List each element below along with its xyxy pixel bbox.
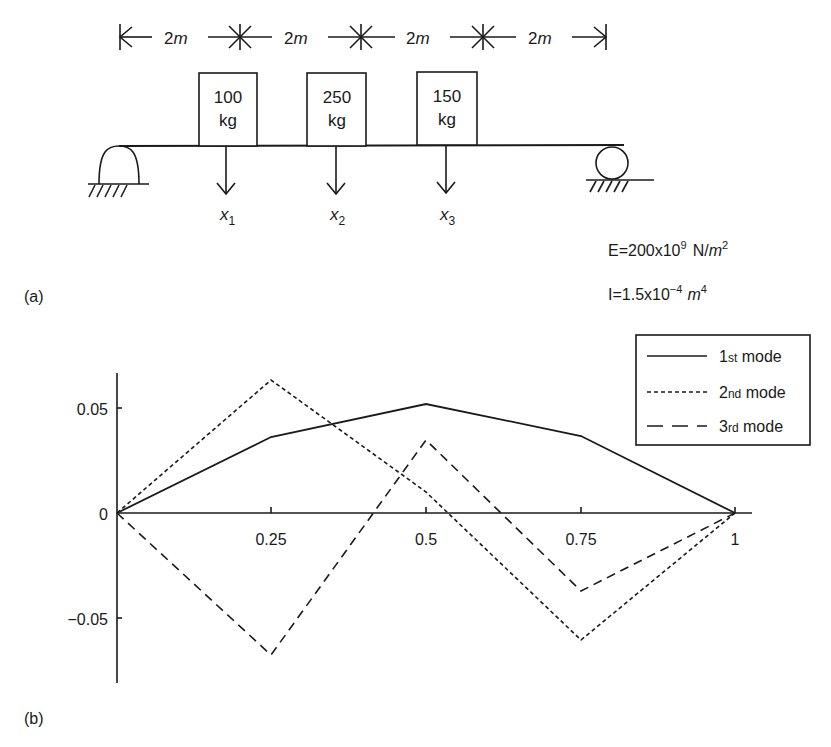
roller-support-icon xyxy=(586,147,654,192)
legend-label-2nd: 2nd mode xyxy=(719,384,786,401)
chart-legend: 1st mode 2nd mode 3rd mode xyxy=(636,335,810,445)
span-label-2: 2m xyxy=(284,29,308,48)
y-tick-labels: 0.05 0 −0.05 xyxy=(68,401,109,628)
coordinate-labels: x1 x2 x3 xyxy=(219,205,456,228)
panel-b-label: (b) xyxy=(24,710,44,727)
displacement-arrows xyxy=(217,145,455,194)
beam xyxy=(119,145,624,146)
span-label-4: 2m xyxy=(528,29,552,48)
mass-3: 150 kg xyxy=(417,72,477,145)
svg-text:0.05: 0.05 xyxy=(77,401,108,418)
svg-text:kg: kg xyxy=(438,110,456,129)
svg-text:0: 0 xyxy=(99,506,108,523)
svg-text:0.25: 0.25 xyxy=(255,531,286,548)
legend-label-1st: 1st mode xyxy=(719,348,782,365)
svg-text:150: 150 xyxy=(433,87,461,106)
svg-text:kg: kg xyxy=(219,111,237,130)
panel-a-label: (a) xyxy=(24,288,44,305)
coord-x2: x2 xyxy=(329,205,346,228)
coord-x1: x1 xyxy=(219,205,236,228)
svg-text:−0.05: −0.05 xyxy=(68,611,109,628)
pin-support-icon xyxy=(88,146,149,197)
moment-of-inertia: I=1.5x10−4m4 xyxy=(608,283,707,303)
span-label-3: 2m xyxy=(406,29,430,48)
svg-text:1: 1 xyxy=(731,531,740,548)
svg-text:kg: kg xyxy=(328,111,346,130)
x-tick-labels: 0.25 0.5 0.75 1 xyxy=(255,531,739,548)
figure-canvas: 2m 2m 2m 2m 100 kg 250 kg 150 kg x1 x2 x… xyxy=(0,0,831,747)
mass-2: 250 kg xyxy=(307,73,366,146)
coord-x3: x3 xyxy=(439,205,456,228)
span-label-1: 2m xyxy=(164,29,188,48)
svg-text:0.5: 0.5 xyxy=(415,531,437,548)
mass-1: 100 kg xyxy=(199,73,257,146)
svg-text:250: 250 xyxy=(323,88,351,107)
youngs-modulus: E=200x109N/m2 xyxy=(608,239,728,259)
span-labels: 2m 2m 2m 2m xyxy=(164,29,552,48)
legend-label-3rd: 3rd mode xyxy=(719,418,783,435)
svg-text:0.75: 0.75 xyxy=(565,531,596,548)
svg-text:100: 100 xyxy=(214,88,242,107)
